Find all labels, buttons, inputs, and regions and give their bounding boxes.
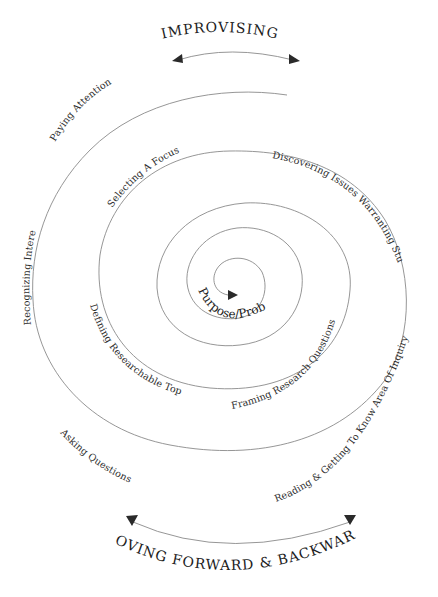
left-arrowhead-icon [172,54,183,63]
center-label-purpose-problem: Purpose/Problem [0,0,268,321]
stage-label-framing-research-questions: Framing Research Questions [230,318,337,411]
stage-label-selecting-a-focus: Selecting A Focus [105,144,181,209]
research-spiral-diagram: IMPROVISING MOVING FORWARD & BACKWARD Pa… [0,0,438,597]
improvising-arrow-line [178,52,293,60]
stage-label-asking-questions: Asking Questions [58,426,134,485]
bottom-left-arrowhead-icon [126,515,138,526]
stage-label-recognizing-interests: Recognizing Interests [0,0,38,326]
right-arrowhead-icon [289,54,300,64]
stage-label-paying-attention: Paying Attention [47,76,113,143]
top-caption: IMPROVISING [160,19,281,42]
spiral-path [33,92,407,450]
center-arrowhead-icon [228,290,238,300]
moving-arrow-line [133,522,350,544]
stage-label-defining-researchable-topics: Defining Researchable Topics [0,0,183,397]
stage-label-reading-getting-to-know: Reading & Getting To Know Area Of Inquir… [273,334,410,504]
